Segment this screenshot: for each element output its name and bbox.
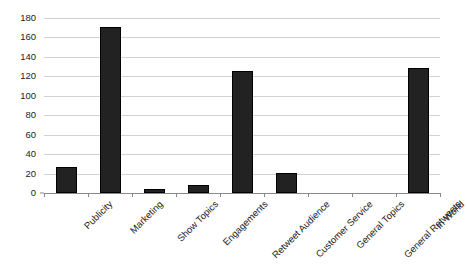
y-axis-tick-label: 80 — [2, 110, 36, 120]
x-axis-tick-label: Show Topics — [176, 199, 221, 244]
bars-layer — [44, 18, 440, 193]
x-axis-tick-mark — [264, 193, 265, 197]
x-axis-tick-mark — [132, 193, 133, 197]
x-axis-tick-label: Marketing — [128, 199, 165, 236]
bar — [408, 68, 429, 193]
y-axis-tick-label: 20 — [2, 169, 36, 179]
y-axis-tick-label: 60 — [2, 130, 36, 140]
x-axis-label-1: Marketing — [128, 199, 165, 236]
x-axis-tick-mark — [352, 193, 353, 197]
x-axis-tick-label: Engagements — [221, 199, 270, 248]
y-axis-tick-label: 160 — [2, 33, 36, 43]
bar — [144, 189, 165, 193]
y-axis-tick-label: 180 — [2, 13, 36, 23]
x-axis-tick-mark — [220, 193, 221, 197]
axis-baseline — [44, 193, 440, 194]
x-axis-tick-label: Publicity — [82, 199, 114, 231]
y-axis-tick-label: 100 — [2, 91, 36, 101]
x-axis-label-2: Show Topics — [176, 199, 221, 244]
y-axis-tick-label: 40 — [2, 149, 36, 159]
x-axis-tick-mark — [308, 193, 309, 197]
bar — [100, 27, 121, 193]
x-axis-label-0: Publicity — [82, 199, 114, 231]
bar — [56, 167, 77, 193]
x-axis-tick-mark — [176, 193, 177, 197]
x-axis-tick-mark — [44, 193, 45, 197]
bar — [276, 173, 297, 193]
x-axis-tick-mark — [88, 193, 89, 197]
bar — [188, 185, 209, 193]
x-axis-tick-mark — [396, 193, 397, 197]
x-axis-tick-mark — [440, 193, 441, 197]
y-axis-tick-label: 0 — [2, 188, 36, 198]
x-axis-label-3: Engagements — [221, 199, 270, 248]
y-axis-tick-label: 140 — [2, 52, 36, 62]
y-axis-tick-label: 120 — [2, 72, 36, 82]
bar — [232, 71, 253, 193]
plot-area: 020406080100120140160180 — [44, 18, 440, 193]
